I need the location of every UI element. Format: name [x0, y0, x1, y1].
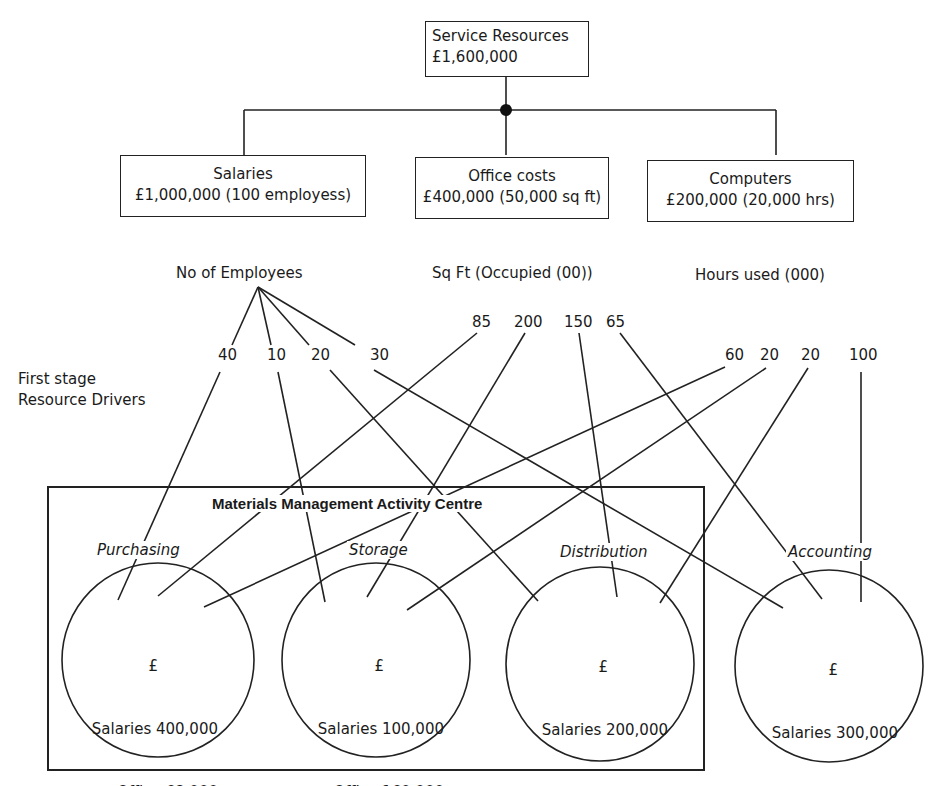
driver-value: 100: [848, 346, 879, 364]
resource-name: Office costs: [416, 166, 608, 187]
storage-cost-pool: £ Salaries 100,000 Office 160,000 Comput…: [288, 614, 444, 786]
salaries-box: Salaries £1,000,000 (100 employess): [120, 155, 366, 217]
resource-detail: £200,000 (20,000 hrs): [648, 190, 853, 211]
resource-detail: £400,000 (50,000 sq ft): [416, 187, 608, 208]
driver-value: 200: [513, 313, 544, 331]
activity-label-accounting: Accounting: [786, 543, 874, 561]
driver-value: 60: [724, 346, 745, 364]
root-amount: £1,600,000: [432, 47, 582, 68]
root-title: Service Resources: [432, 26, 582, 47]
resource-name: Computers: [648, 169, 853, 190]
activity-label-storage: Storage: [347, 541, 410, 559]
purchasing-cost-pool: £ Salaries 400,000 Office 68,000 Compute…: [62, 614, 218, 786]
driver-value: 20: [800, 346, 821, 364]
driver-value: 40: [217, 346, 238, 364]
office-costs-box: Office costs £400,000 (50,000 sq ft): [415, 157, 609, 219]
driver-value: 10: [266, 346, 287, 364]
hours-driver-header: Hours used (000): [695, 266, 825, 284]
driver-value: 150: [563, 313, 594, 331]
resource-detail: £1,000,000 (100 employess): [121, 185, 365, 206]
driver-value: 20: [759, 346, 780, 364]
accounting-cost-pool: £ Salaries 300,000 Office 52,000 Compute…: [742, 618, 898, 786]
activity-centre-title: Materials Management Activity Centre: [210, 495, 484, 512]
driver-value: 30: [369, 346, 390, 364]
driver-value: 65: [605, 313, 626, 331]
activity-label-purchasing: Purchasing: [95, 541, 182, 559]
computers-box: Computers £200,000 (20,000 hrs): [647, 160, 854, 222]
resource-name: Salaries: [121, 164, 365, 185]
first-stage-label: First stage Resource Drivers: [18, 369, 146, 411]
driver-value: 20: [310, 346, 331, 364]
service-resources-box: Service Resources £1,600,000: [425, 21, 589, 77]
activity-label-distribution: Distribution: [558, 543, 650, 561]
employees-driver-header: No of Employees: [176, 264, 303, 282]
driver-value: 85: [471, 313, 492, 331]
distribution-cost-pool: £ Salaries 200,000 Office 120,000 Comput…: [512, 615, 668, 786]
sqft-driver-header: Sq Ft (Occupied (00)): [432, 264, 593, 282]
